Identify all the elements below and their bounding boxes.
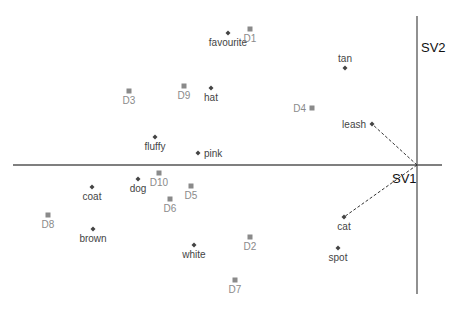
data-points: favouritetanhatleashfluffypinkdogcoatbro… — [42, 27, 375, 296]
point-label: cat — [337, 221, 351, 232]
point-label: D8 — [42, 219, 55, 230]
term-point: dog — [130, 177, 147, 195]
point-label: D1 — [244, 33, 257, 44]
point-label: spot — [329, 252, 348, 263]
diamond-marker-icon — [370, 122, 375, 127]
square-marker-icon — [46, 213, 51, 218]
document-point: D6 — [164, 197, 177, 215]
diamond-marker-icon — [90, 185, 95, 190]
term-point: tan — [338, 53, 352, 71]
point-label: dog — [130, 183, 147, 194]
square-marker-icon — [168, 197, 173, 202]
square-marker-icon — [189, 184, 194, 189]
y-axis-label: SV2 — [421, 40, 446, 55]
square-marker-icon — [248, 27, 253, 32]
point-label: pink — [204, 148, 223, 159]
point-label: white — [181, 249, 206, 260]
term-point: pink — [196, 148, 224, 159]
diamond-marker-icon — [91, 227, 96, 232]
term-point: cat — [337, 215, 351, 233]
diamond-marker-icon — [226, 31, 231, 36]
point-label: brown — [79, 233, 106, 244]
scatter-plot: SV1 SV2 favouritetanhatleashfluffypinkdo… — [0, 0, 454, 310]
point-label: D3 — [123, 95, 136, 106]
term-point: hat — [204, 86, 218, 104]
diamond-marker-icon — [209, 86, 214, 91]
document-point: D2 — [244, 235, 257, 253]
diamond-marker-icon — [196, 151, 201, 156]
point-label: fluffy — [145, 141, 166, 152]
point-label: leash — [342, 119, 366, 130]
diamond-marker-icon — [336, 246, 341, 251]
document-point: D8 — [42, 213, 55, 231]
diamond-marker-icon — [343, 66, 348, 71]
point-label: D2 — [244, 241, 257, 252]
square-marker-icon — [182, 84, 187, 89]
term-point: coat — [83, 185, 102, 203]
document-point: D4 — [293, 103, 314, 114]
term-point: spot — [329, 246, 348, 264]
point-label: hat — [204, 92, 218, 103]
axes: SV1 SV2 — [13, 16, 446, 294]
document-point: D5 — [185, 184, 198, 202]
point-label: D10 — [150, 177, 169, 188]
point-label: D7 — [229, 284, 242, 295]
point-label: favourite — [209, 37, 248, 48]
square-marker-icon — [248, 235, 253, 240]
document-point: D9 — [178, 84, 191, 102]
square-marker-icon — [127, 89, 132, 94]
point-label: tan — [338, 53, 352, 64]
dashed-vector-leash — [372, 124, 417, 165]
diamond-marker-icon — [136, 177, 141, 182]
diamond-marker-icon — [153, 135, 158, 140]
term-point: fluffy — [145, 135, 166, 153]
term-point: white — [181, 243, 206, 261]
square-marker-icon — [233, 278, 238, 283]
point-label: coat — [83, 191, 102, 202]
point-label: D6 — [164, 203, 177, 214]
document-point: D7 — [229, 278, 242, 296]
point-label: D9 — [178, 90, 191, 101]
document-point: D10 — [150, 171, 169, 189]
point-label: D4 — [293, 103, 306, 114]
point-label: D5 — [185, 190, 198, 201]
square-marker-icon — [157, 171, 162, 176]
document-point: D3 — [123, 89, 136, 107]
document-point: D1 — [244, 27, 257, 45]
diamond-marker-icon — [192, 243, 197, 248]
term-point: leash — [342, 119, 374, 130]
term-point: brown — [79, 227, 106, 245]
square-marker-icon — [310, 106, 315, 111]
x-axis-label: SV1 — [392, 171, 417, 186]
term-point: favourite — [209, 31, 248, 49]
